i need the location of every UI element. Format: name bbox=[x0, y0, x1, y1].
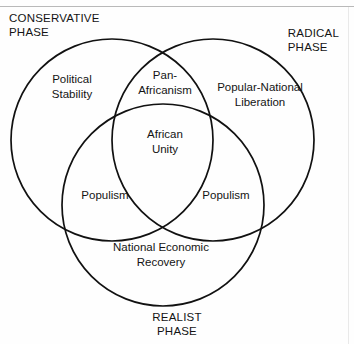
region-popular-national-liberation: Popular-National Liberation bbox=[200, 80, 320, 110]
region-national-economic-recovery: National Economic Recovery bbox=[88, 240, 234, 270]
region-political-stability: Political Stability bbox=[26, 72, 118, 102]
region-african-unity: African Unity bbox=[125, 127, 205, 157]
region-populism-left: Populism bbox=[62, 188, 148, 203]
label-realist-phase: REALIST PHASE bbox=[0, 310, 354, 338]
label-radical-phase: RADICAL PHASE bbox=[288, 26, 339, 54]
label-conservative-phase: CONSERVATIVE PHASE bbox=[9, 11, 100, 39]
region-pan-africanism: Pan- Africanism bbox=[124, 68, 206, 98]
region-populism-right: Populism bbox=[183, 188, 269, 203]
venn-diagram-page: CONSERVATIVE PHASE RADICAL PHASE REALIST… bbox=[0, 0, 354, 344]
